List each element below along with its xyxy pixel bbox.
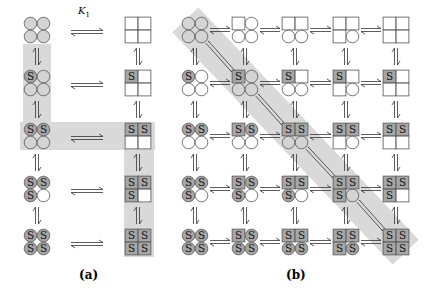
substrate-s-label: S (248, 242, 255, 254)
square-subunit-empty (383, 136, 396, 149)
panel-b-state-1S-4T: S (383, 70, 409, 96)
panel-b-state-1S-3T: S (333, 70, 359, 96)
square-subunit-empty (138, 30, 151, 43)
substrate-s-label: S (298, 229, 305, 241)
square-subunit-empty (383, 17, 396, 30)
substrate-s-label: S (336, 229, 343, 241)
panel-b-binding-arrow-1-0 (191, 101, 199, 118)
substrate-s-label: S (141, 229, 148, 241)
substrate-s-label: S (336, 70, 343, 82)
panel-b-state-2S-1T: SS (232, 123, 258, 149)
substrate-s-label: S (248, 229, 255, 241)
substrate-s-label: S (128, 242, 135, 254)
substrate-s-label: S (185, 176, 192, 188)
panel-a-equilibrium-arrow-1 (71, 81, 103, 89)
substrate-s-label: S (386, 242, 393, 254)
panel-b-state-4S-4T: SSSS (383, 229, 409, 255)
substrate-s-label: S (40, 123, 47, 135)
circle-subunit-empty (37, 30, 50, 43)
substrate-s-label: S (399, 176, 406, 188)
substrate-s-label: S (399, 123, 406, 135)
circle-subunit-empty (245, 189, 258, 202)
circle-subunit-empty (282, 136, 295, 149)
panel-b-state-3S-2T: SSS (282, 176, 308, 202)
substrate-s-label: S (128, 70, 135, 82)
square-subunit-empty (295, 70, 308, 83)
circle-subunit-empty (24, 136, 37, 149)
square-subunit-empty (125, 17, 138, 30)
substrate-s-label: S (349, 123, 356, 135)
substrate-s-label: S (40, 229, 47, 241)
panel-a-equilibrium-arrow-4 (71, 240, 103, 248)
panel-b-state-4S-2T: SSSS (282, 229, 308, 255)
panel-b-binding-arrow-3-2 (291, 207, 299, 224)
square-subunit-empty (346, 17, 359, 30)
panel-a-t-state-1S: S (125, 70, 151, 96)
panel-a-equilibrium-arrow-3 (71, 187, 103, 195)
panel-a-label: (a) (79, 268, 98, 282)
square-subunit-empty (138, 189, 151, 202)
circle-subunit-empty (295, 136, 308, 149)
circle-subunit-empty (195, 17, 208, 30)
panel-b-state-2S-3T: SS (333, 123, 359, 149)
substrate-s-label: S (128, 123, 135, 135)
panel-b-state-3S-4T: SSS (383, 176, 409, 202)
substrate-s-label: S (349, 229, 356, 241)
circle-subunit-empty (245, 30, 258, 43)
panel-a-binding-arrow-t-1 (134, 101, 142, 118)
substrate-s-label: S (336, 176, 343, 188)
substrate-s-label: S (298, 176, 305, 188)
circle-subunit-empty (232, 83, 245, 96)
substrate-s-label: S (128, 176, 135, 188)
square-subunit-empty (295, 17, 308, 30)
substrate-s-label: S (141, 123, 148, 135)
circle-subunit-empty (195, 189, 208, 202)
square-subunit-empty (346, 70, 359, 83)
substrate-s-label: S (336, 189, 343, 201)
panel-b-conformation-arrow-4-1 (260, 238, 280, 246)
substrate-s-label: S (185, 189, 192, 201)
circle-subunit-empty (195, 136, 208, 149)
substrate-s-label: S (198, 242, 205, 254)
circle-subunit-empty (346, 30, 359, 43)
square-subunit-empty (396, 189, 409, 202)
panel-b-conformation-arrow-4-0 (210, 238, 230, 246)
circle-subunit-empty (346, 136, 359, 149)
panel-b-binding-arrow-2-0 (191, 154, 199, 171)
panel-b-binding-arrow-0-3 (342, 48, 350, 65)
panel-a-r-state-0S (24, 17, 50, 43)
panel-b-state-0S-4T (383, 17, 409, 43)
substrate-s-label: S (285, 189, 292, 201)
circle-subunit-empty (232, 30, 245, 43)
substrate-s-label: S (27, 229, 34, 241)
substrate-s-label: S (285, 176, 292, 188)
substrate-s-label: S (386, 123, 393, 135)
panel-b-state-1S-0T: S (182, 70, 208, 96)
square-subunit-empty (125, 136, 138, 149)
substrate-s-label: S (386, 70, 393, 82)
substrate-s-label: S (27, 189, 34, 201)
substrate-s-label: S (336, 123, 343, 135)
substrate-s-label: S (27, 176, 34, 188)
substrate-s-label: S (198, 123, 205, 135)
substrate-s-label: S (185, 229, 192, 241)
substrate-s-label: S (285, 242, 292, 254)
panel-b-conformation-arrow-0-1 (260, 26, 280, 34)
panel-b-state-4S-1T: SSSS (232, 229, 258, 255)
substrate-s-label: S (349, 176, 356, 188)
substrate-s-label: S (386, 229, 393, 241)
substrate-s-label: S (248, 176, 255, 188)
circle-subunit-empty (195, 83, 208, 96)
circle-subunit-empty (195, 30, 208, 43)
k1-subscript: 1 (85, 11, 89, 19)
square-subunit-empty (125, 83, 138, 96)
circle-subunit-empty (245, 136, 258, 149)
substrate-s-label: S (198, 176, 205, 188)
panel-a-equilibrium-arrow-0 (71, 28, 103, 36)
substrate-s-label: S (248, 123, 255, 135)
square-subunit-empty (333, 83, 346, 96)
square-subunit-empty (396, 30, 409, 43)
substrate-s-label: S (40, 242, 47, 254)
circle-subunit-empty (232, 136, 245, 149)
substrate-s-label: S (349, 242, 356, 254)
